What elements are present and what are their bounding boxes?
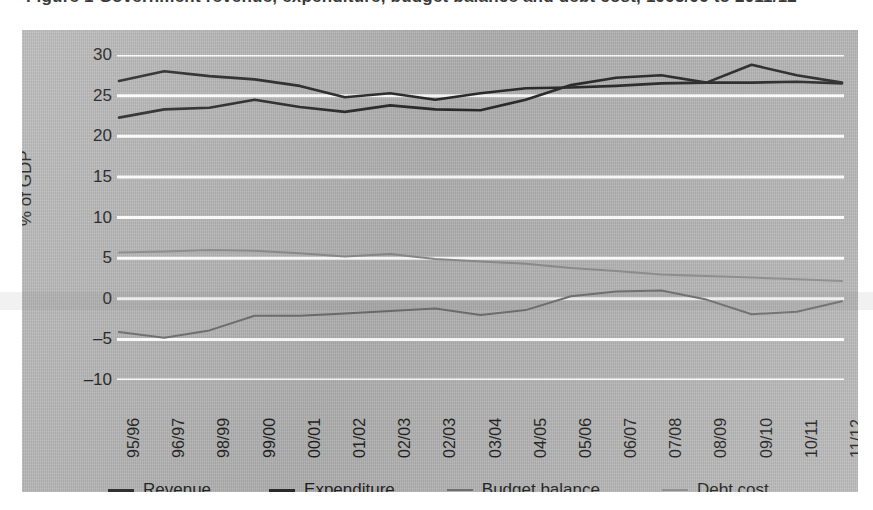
plot-area — [117, 55, 844, 380]
legend-label: Revenue — [143, 480, 211, 492]
y-tick-label: 5 — [103, 248, 112, 268]
legend-swatch — [108, 489, 134, 492]
x-tick-label: 95/96 — [125, 418, 143, 458]
x-tick-label: 11/12 — [848, 419, 858, 458]
legend-label: Debt cost — [697, 480, 769, 492]
x-tick-label: 09/10 — [758, 418, 776, 458]
x-axis-tick-labels: 95/9696/9798/9999/0000/0101/0202/0302/03… — [117, 386, 844, 470]
x-tick-label: 10/11 — [803, 419, 821, 458]
x-tick-label: 96/97 — [170, 418, 188, 458]
legend-label: Expenditure — [304, 480, 395, 492]
x-tick-label: 05/06 — [577, 418, 595, 458]
x-tick-label: 01/02 — [351, 418, 369, 458]
x-tick-label: 04/05 — [532, 418, 550, 458]
x-tick-label: 08/09 — [712, 418, 730, 458]
x-tick-label: 07/08 — [667, 418, 685, 458]
y-tick-label: 20 — [93, 126, 112, 146]
x-tick-label: 99/00 — [261, 418, 279, 458]
series-line-debt-cost — [119, 250, 842, 281]
legend-item-budget-balance[interactable]: Budget balance — [447, 480, 600, 492]
legend-swatch — [269, 489, 295, 492]
y-tick-label: 30 — [93, 45, 112, 65]
y-tick-label: 15 — [93, 167, 112, 187]
legend-swatch — [662, 489, 688, 491]
legend-item-revenue[interactable]: Revenue — [108, 480, 211, 492]
y-tick-label: 0 — [103, 289, 112, 309]
y-tick-label: 10 — [93, 208, 112, 228]
chart-legend: RevenueExpenditureBudget balanceDebt cos… — [108, 477, 848, 492]
y-tick-label: 25 — [93, 86, 112, 106]
cropped-caption-strip: Figure 1 Government revenue, expenditure… — [0, 0, 873, 11]
x-tick-label: 06/07 — [622, 418, 640, 458]
chart-panel: % of GDP 302520151050–5–10 95/9696/9798/… — [22, 30, 858, 492]
series-line-revenue — [119, 75, 842, 117]
x-tick-label: 02/03 — [396, 418, 414, 458]
y-axis-title: % of GDP — [22, 150, 36, 226]
legend-item-expenditure[interactable]: Expenditure — [269, 480, 395, 492]
x-tick-label: 03/04 — [487, 418, 505, 458]
x-tick-label: 00/01 — [306, 418, 324, 458]
series-lines — [117, 55, 844, 380]
legend-item-debt-cost[interactable]: Debt cost — [662, 480, 769, 492]
legend-swatch — [447, 489, 473, 491]
legend-label: Budget balance — [482, 480, 600, 492]
x-tick-label: 98/99 — [215, 418, 233, 458]
y-axis-tick-labels: 302520151050–5–10 — [42, 55, 112, 380]
figure-caption: Figure 1 Government revenue, expenditure… — [26, 0, 797, 7]
y-tick-label: –10 — [84, 370, 112, 390]
series-line-budget-balance — [119, 291, 842, 338]
x-tick-label: 02/03 — [441, 418, 459, 458]
y-tick-label: –5 — [93, 329, 112, 349]
